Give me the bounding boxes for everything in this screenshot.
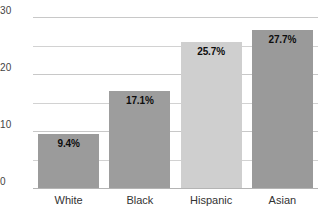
x-label-asian: Asian: [247, 194, 318, 206]
x-label-white: White: [33, 194, 104, 206]
bar-slot: 25.7%: [181, 17, 242, 188]
y-tick-label-30: 30: [0, 5, 26, 16]
plot-area: 9.4%17.1%25.7%27.7%: [33, 17, 318, 188]
bar-value-label: 27.7%: [252, 34, 313, 45]
bar-series: 9.4%17.1%25.7%27.7%: [33, 17, 318, 188]
bar-value-label: 25.7%: [181, 46, 242, 57]
bar-white[interactable]: 9.4%: [38, 134, 99, 188]
bar-asian[interactable]: 27.7%: [252, 30, 313, 188]
bar-value-label: 9.4%: [38, 138, 99, 149]
bar-black[interactable]: 17.1%: [109, 91, 170, 188]
y-tick-label-20: 20: [0, 62, 26, 73]
x-label-black: Black: [104, 194, 175, 206]
y-tick-label-10: 10: [0, 119, 26, 130]
x-axis-line: [33, 188, 318, 189]
bar-value-label: 17.1%: [109, 95, 170, 106]
x-label-hispanic: Hispanic: [176, 194, 247, 206]
bar-hispanic[interactable]: 25.7%: [181, 42, 242, 188]
bar-slot: 17.1%: [109, 17, 170, 188]
x-axis-category-labels: WhiteBlackHispanicAsian: [33, 194, 318, 214]
bar-slot: 9.4%: [38, 17, 99, 188]
bar-chart: 9.4%17.1%25.7%27.7% 0102030 WhiteBlackHi…: [0, 0, 324, 220]
y-tick-label-0: 0: [0, 176, 26, 187]
bar-slot: 27.7%: [252, 17, 313, 188]
